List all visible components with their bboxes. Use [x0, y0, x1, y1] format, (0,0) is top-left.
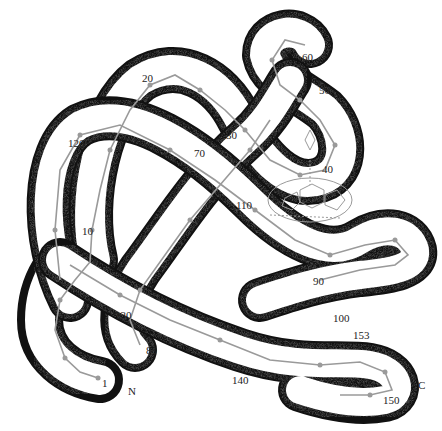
residue-label-40: 40: [322, 164, 333, 175]
residue-label-10: 10: [82, 226, 93, 237]
residue-label-20: 20: [142, 73, 153, 84]
residue-label-150: 150: [383, 395, 400, 406]
residue-label-90: 90: [313, 276, 324, 287]
tube-drawing: [0, 0, 442, 431]
residue-label-70: 70: [194, 148, 205, 159]
residue-label-140: 140: [232, 375, 249, 386]
n-terminus-label: N: [128, 386, 136, 397]
residue-label-130: 130: [115, 310, 132, 321]
residue-label-30: 30: [226, 130, 237, 141]
residue-label-60: 60: [302, 52, 313, 63]
residue-label-100: 100: [333, 313, 350, 324]
residue-label-1: 1: [102, 378, 108, 389]
residue-label-80: 80: [146, 345, 157, 356]
protein-tube-diagram: 1 N 10 20 30 40 50 60 70 80 90 100 110 1…: [0, 0, 442, 431]
residue-label-50: 50: [319, 85, 330, 96]
residue-label-153: 153: [353, 330, 370, 341]
residue-label-120: 120: [68, 138, 85, 149]
residue-label-110: 110: [236, 200, 252, 211]
c-terminus-label: C: [418, 380, 425, 391]
